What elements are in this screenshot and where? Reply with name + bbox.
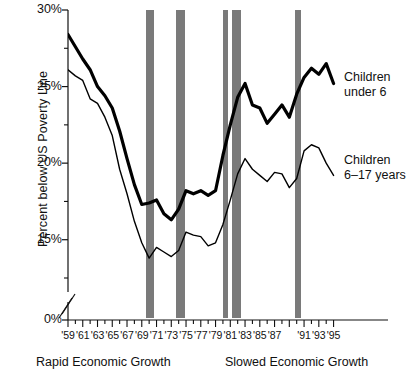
series-line-under-6: [68, 35, 334, 220]
series-label-6-17: Children 6–17 years: [344, 153, 406, 183]
series-label-under-6: Children under 6: [344, 70, 391, 100]
annotation-rapid-growth: Rapid Economic Growth: [36, 355, 171, 369]
x-tick-label: '87: [263, 329, 287, 341]
x-tick-label: '95: [322, 329, 346, 341]
series-lines: [68, 10, 338, 320]
poverty-line-chart: Percent below US Poverty Line 0%15%20%25…: [0, 0, 415, 377]
plot-area: [68, 10, 338, 320]
annotation-slowed-growth: Slowed Economic Growth: [225, 355, 368, 369]
